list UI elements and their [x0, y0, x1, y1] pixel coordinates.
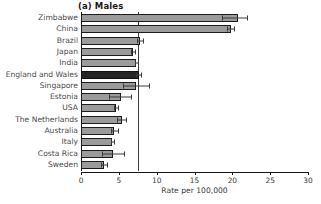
- x-tick-label-30: 30: [303, 176, 312, 185]
- error-bar-line-12: [102, 153, 124, 154]
- chart-container: (a) Males ZimbabweChinaBrazilJapanIndiaE…: [0, 0, 321, 204]
- error-bar-line-10: [111, 131, 118, 132]
- error-bar-line-9: [117, 119, 127, 120]
- category-label-italy: Italy: [62, 139, 78, 147]
- category-label-china: China: [56, 26, 78, 34]
- category-label-estonia: Estonia: [50, 93, 78, 101]
- error-bar-cap-high-8: [118, 106, 119, 111]
- bar-brazil: [81, 37, 140, 45]
- error-bar-cap-high-12: [124, 151, 125, 156]
- category-label-sweden: Sweden: [48, 161, 78, 169]
- category-label-singapore: Singapore: [40, 82, 78, 90]
- plot-area: ZimbabweChinaBrazilJapanIndiaEngland and…: [0, 0, 321, 204]
- category-label-australia: Australia: [44, 127, 78, 135]
- x-tick-label-0: 0: [79, 176, 84, 185]
- error-bar-cap-high-0: [247, 16, 248, 21]
- bar-japan: [81, 48, 133, 56]
- error-bar-cap-low-11: [111, 140, 112, 145]
- x-tick-label-10: 10: [152, 176, 161, 185]
- category-label-brazil: Brazil: [57, 37, 78, 45]
- error-bar-line-6: [123, 85, 149, 86]
- error-bar-cap-low-4: [135, 61, 136, 66]
- error-bar-cap-low-0: [222, 16, 223, 21]
- category-label-usa: USA: [62, 105, 78, 113]
- category-label-the-netherlands: The Netherlands: [15, 116, 78, 124]
- error-bar-cap-high-3: [135, 49, 136, 54]
- bar-italy: [81, 138, 112, 146]
- error-bar-cap-high-6: [149, 83, 150, 88]
- error-bar-cap-low-6: [123, 83, 124, 88]
- x-tick-label-20: 20: [228, 176, 237, 185]
- error-bar-line-0: [222, 18, 247, 19]
- x-tick-0: [81, 172, 82, 175]
- error-bar-cap-low-12: [102, 151, 103, 156]
- bar-china: [81, 25, 231, 33]
- error-bar-line-7: [109, 97, 131, 98]
- category-label-costa-rica: Costa Rica: [38, 150, 78, 158]
- error-bar-cap-high-4: [138, 61, 139, 66]
- error-bar-line-1: [227, 29, 234, 30]
- x-tick-30: [308, 172, 309, 175]
- error-bar-cap-high-10: [118, 129, 119, 134]
- error-bar-cap-high-11: [114, 140, 115, 145]
- error-bar-cap-low-10: [111, 129, 112, 134]
- x-tick-25: [270, 172, 271, 175]
- category-label-japan: Japan: [57, 48, 78, 56]
- error-bar-cap-high-9: [126, 117, 127, 122]
- x-tick-5: [119, 172, 120, 175]
- x-tick-label-25: 25: [265, 176, 274, 185]
- category-label-india: India: [59, 59, 78, 67]
- category-label-england-and-wales: England and Wales: [6, 71, 78, 79]
- bar-australia: [81, 127, 114, 135]
- error-bar-cap-high-5: [141, 72, 142, 77]
- error-bar-cap-low-2: [137, 38, 138, 43]
- x-tick-20: [232, 172, 233, 175]
- error-bar-cap-low-1: [227, 27, 228, 32]
- error-bar-cap-low-5: [136, 72, 137, 77]
- error-bar-cap-high-1: [234, 27, 235, 32]
- x-axis-title: Rate per 100,000: [161, 186, 227, 195]
- bar-england-and-wales: [81, 71, 139, 79]
- error-bar-cap-low-13: [101, 162, 102, 167]
- x-tick-15: [195, 172, 196, 175]
- category-label-zimbabwe: Zimbabwe: [38, 14, 78, 22]
- error-bar-cap-low-3: [131, 49, 132, 54]
- error-bar-cap-high-2: [143, 38, 144, 43]
- bar-india: [81, 59, 136, 67]
- x-tick-label-15: 15: [190, 176, 199, 185]
- x-tick-label-5: 5: [116, 176, 121, 185]
- bar-zimbabwe: [81, 14, 238, 22]
- error-bar-cap-low-8: [114, 106, 115, 111]
- error-bar-cap-high-13: [107, 162, 108, 167]
- x-tick-10: [157, 172, 158, 175]
- error-bar-cap-low-9: [117, 117, 118, 122]
- error-bar-cap-low-7: [109, 95, 110, 100]
- error-bar-cap-high-7: [131, 95, 132, 100]
- bar-usa: [81, 104, 116, 112]
